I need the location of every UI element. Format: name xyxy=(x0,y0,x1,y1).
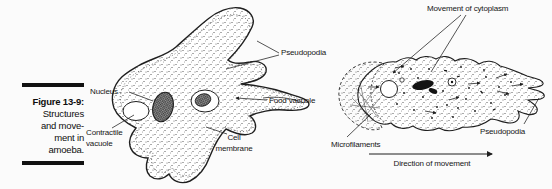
nucleus-label: Nucleus xyxy=(90,86,124,97)
caption-bottom-bar xyxy=(22,161,84,165)
figure-number: Figure 13-9: xyxy=(13,96,84,108)
caption-line: Structures xyxy=(13,108,84,120)
caption-line: and move- xyxy=(13,120,84,132)
figure-caption: Figure 13-9: Structures and move- ment i… xyxy=(13,83,84,165)
contractile-vacuole-label: Contractile vacuole xyxy=(86,127,128,149)
figure-13-9: Nucleus Contractile vacuole Pseudopodia … xyxy=(0,0,552,189)
caption-line: amoeba. xyxy=(13,144,84,156)
food-vacuole-label: Food vacuole xyxy=(269,95,319,106)
cell-membrane-label: Cell membrane xyxy=(212,132,256,154)
vacuole-circle xyxy=(381,81,398,98)
microfilaments-label: Microfilaments xyxy=(331,139,391,150)
food-vacuole-shape xyxy=(191,90,219,112)
caption-line: ment in xyxy=(13,132,84,144)
pseudopodia-leader-line-1 xyxy=(257,41,279,53)
granule-circle xyxy=(448,78,456,86)
pseudopodia-right-label: Pseudopodia xyxy=(480,126,530,137)
direction-of-movement-label: Direction of movement xyxy=(389,158,475,169)
contractile-vacuole-shape xyxy=(123,102,149,121)
small-vesicle xyxy=(400,78,404,82)
movement-of-cytoplasm-label: Movement of cytoplasm xyxy=(427,3,522,14)
pseudopodia-left-label: Pseudopodia xyxy=(281,47,331,58)
caption-top-bar xyxy=(22,83,84,87)
